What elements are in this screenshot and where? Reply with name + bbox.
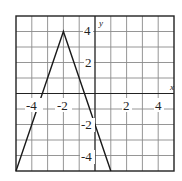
y-tick-label: 4 <box>84 23 91 38</box>
x-tick-label: 4 <box>155 98 162 113</box>
x-tick-label: -2 <box>57 98 68 113</box>
y-tick-label: 2 <box>85 55 92 70</box>
y-axis-label: y <box>98 18 103 28</box>
coordinate-plane: -4 -2 2 4 4 2 -2 -4 x y <box>0 0 182 181</box>
y-tick-label: -4 <box>81 149 92 164</box>
y-tick-label: -2 <box>81 117 92 132</box>
x-tick-label: -4 <box>26 98 37 113</box>
x-axis-label: x <box>169 82 174 92</box>
x-tick-label: 2 <box>123 98 130 113</box>
